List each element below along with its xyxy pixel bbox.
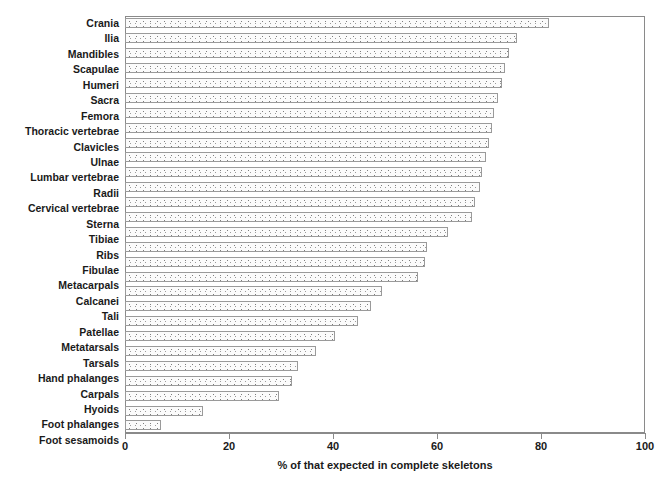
bar-row: [125, 16, 645, 31]
bar: [125, 301, 371, 311]
bar: [125, 48, 509, 58]
x-tick: [125, 433, 126, 439]
x-tick: [437, 433, 438, 439]
x-axis-line: [125, 433, 645, 434]
bar: [125, 93, 498, 103]
bar: [125, 138, 489, 148]
bar: [125, 242, 427, 252]
bar-row: [125, 314, 645, 329]
category-label: Hyoids: [0, 402, 119, 417]
bar-row: [125, 150, 645, 165]
category-label: Scapulae: [0, 62, 119, 77]
bar: [125, 227, 448, 237]
bar-row: [125, 135, 645, 150]
category-label: Patellae: [0, 325, 119, 340]
bar-row: [125, 388, 645, 403]
bar: [125, 376, 292, 386]
x-tick: [333, 433, 334, 439]
bar-row: [125, 61, 645, 76]
category-label: Tarsals: [0, 356, 119, 371]
category-label: Ulnae: [0, 155, 119, 170]
x-tick-label: 100: [636, 440, 654, 452]
bar-row: [125, 120, 645, 135]
bar: [125, 167, 482, 177]
bar-row: [125, 210, 645, 225]
bar: [125, 361, 298, 371]
bar: [125, 33, 517, 43]
category-label: Ribs: [0, 248, 119, 263]
bar-row: [125, 46, 645, 61]
x-tick-label: 60: [431, 440, 443, 452]
bar-row: [125, 403, 645, 418]
x-tick: [541, 433, 542, 439]
bar-row: [125, 239, 645, 254]
x-tick: [229, 433, 230, 439]
bar: [125, 78, 502, 88]
bar-row: [125, 299, 645, 314]
bar-row: [125, 269, 645, 284]
bar-row: [125, 344, 645, 359]
category-label: Humeri: [0, 78, 119, 93]
bar: [125, 420, 161, 430]
bar-row: [125, 90, 645, 105]
category-label: Fibulae: [0, 263, 119, 278]
bar: [125, 63, 505, 73]
bar-row: [125, 195, 645, 210]
category-label: Lumbar vertebrae: [0, 170, 119, 185]
category-label: Ilia: [0, 31, 119, 46]
bar: [125, 331, 335, 341]
bar-row: [125, 105, 645, 120]
bar-chart: CraniaIliaMandiblesScapulaeHumeriSacraFe…: [0, 0, 668, 486]
bar: [125, 18, 549, 28]
bar-row: [125, 373, 645, 388]
x-tick: [645, 433, 646, 439]
bar-row: [125, 418, 645, 433]
x-tick-label: 20: [223, 440, 235, 452]
bar: [125, 212, 472, 222]
category-label: Cervical vertebrae: [0, 201, 119, 216]
x-tick-label: 40: [327, 440, 339, 452]
bar: [125, 346, 316, 356]
category-label: Sterna: [0, 217, 119, 232]
category-label: Radii: [0, 186, 119, 201]
bar-row: [125, 165, 645, 180]
bar-row: [125, 31, 645, 46]
category-label: Carpals: [0, 387, 119, 402]
bar: [125, 316, 358, 326]
category-label: Metacarpals: [0, 278, 119, 293]
bar: [125, 182, 480, 192]
category-label: Metatarsals: [0, 340, 119, 355]
bar-row: [125, 284, 645, 299]
category-label: Femora: [0, 109, 119, 124]
bar-row: [125, 254, 645, 269]
x-tick-label: 0: [122, 440, 128, 452]
category-label: Mandibles: [0, 47, 119, 62]
bar-row: [125, 358, 645, 373]
bar-series: [125, 16, 645, 433]
category-label: Thoracic vertebrae: [0, 124, 119, 139]
x-tick-label: 80: [535, 440, 547, 452]
category-label: Tali: [0, 309, 119, 324]
bar-row: [125, 180, 645, 195]
category-label: Sacra: [0, 93, 119, 108]
category-label: Tibiae: [0, 232, 119, 247]
bar-row: [125, 224, 645, 239]
bar-row: [125, 76, 645, 91]
bar: [125, 197, 475, 207]
bar: [125, 152, 486, 162]
bar: [125, 272, 418, 282]
category-label: Hand phalanges: [0, 371, 119, 386]
category-axis-labels: CraniaIliaMandiblesScapulaeHumeriSacraFe…: [0, 16, 119, 433]
category-label: Clavicles: [0, 140, 119, 155]
bar: [125, 123, 492, 133]
bar: [125, 286, 382, 296]
bar: [125, 391, 279, 401]
category-label: Crania: [0, 16, 119, 31]
x-axis-title: % of that expected in complete skeletons: [125, 459, 645, 471]
bar: [125, 406, 203, 416]
bar: [125, 108, 494, 118]
category-label: Foot phalanges: [0, 417, 119, 432]
bar: [125, 257, 425, 267]
bar-row: [125, 329, 645, 344]
category-label: Foot sesamoids: [0, 433, 119, 448]
